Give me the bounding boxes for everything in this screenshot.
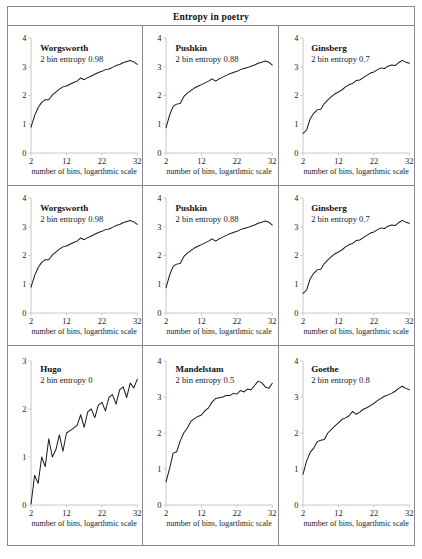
svg-text:32: 32 — [133, 317, 141, 326]
svg-text:4: 4 — [294, 357, 299, 366]
panel-mandelstam: 012342122232number of bins, logarthmic s… — [143, 346, 278, 545]
plot-area: 012342122232number of bins, logarthmic s… — [279, 186, 414, 345]
svg-text:32: 32 — [268, 157, 276, 166]
svg-text:22: 22 — [98, 317, 106, 326]
svg-text:2: 2 — [294, 92, 298, 101]
svg-text:32: 32 — [405, 157, 413, 166]
svg-text:12: 12 — [62, 317, 70, 326]
svg-text:0: 0 — [22, 501, 26, 510]
svg-text:12: 12 — [334, 509, 342, 518]
svg-text:1: 1 — [158, 465, 162, 474]
svg-text:3: 3 — [294, 63, 298, 72]
svg-text:12: 12 — [198, 317, 206, 326]
svg-text:0: 0 — [294, 149, 298, 158]
svg-text:2: 2 — [22, 405, 26, 414]
panel-worgsworth-2: 012342122232number of bins, logarthmic s… — [8, 186, 143, 346]
svg-text:number of bins, logarthmic sca: number of bins, logarthmic scale — [167, 519, 273, 528]
svg-text:22: 22 — [369, 157, 377, 166]
svg-text:2: 2 — [164, 317, 168, 326]
svg-text:4: 4 — [158, 357, 163, 366]
svg-text:number of bins, logarthmic sca: number of bins, logarthmic scale — [167, 327, 273, 336]
svg-text:12: 12 — [62, 157, 70, 166]
svg-text:3: 3 — [158, 393, 162, 402]
svg-text:2: 2 — [29, 317, 33, 326]
svg-text:22: 22 — [233, 509, 241, 518]
svg-text:number of bins, logarthmic sca: number of bins, logarthmic scale — [32, 519, 138, 528]
figure-root: Entropy in poetry 012342122232number of … — [0, 0, 422, 559]
svg-text:22: 22 — [369, 509, 377, 518]
svg-text:2: 2 — [22, 92, 26, 101]
plot-area: 01232122232number of bins, logarthmic sc… — [8, 346, 142, 545]
panel-grid: 012342122232number of bins, logarthmic s… — [7, 26, 415, 546]
svg-text:2: 2 — [301, 509, 305, 518]
svg-text:22: 22 — [369, 317, 377, 326]
svg-text:0: 0 — [22, 149, 26, 158]
svg-text:3: 3 — [22, 357, 26, 366]
plot-area: 012342122232number of bins, logarthmic s… — [279, 26, 414, 185]
svg-text:number of bins, logarthmic sca: number of bins, logarthmic scale — [303, 327, 409, 336]
svg-text:12: 12 — [198, 157, 206, 166]
svg-text:4: 4 — [294, 194, 299, 203]
svg-text:2: 2 — [158, 252, 162, 261]
plot-area: 012342122232number of bins, logarthmic s… — [143, 346, 277, 545]
svg-text:3: 3 — [158, 223, 162, 232]
svg-text:2: 2 — [301, 317, 305, 326]
svg-text:22: 22 — [233, 157, 241, 166]
svg-text:2: 2 — [158, 429, 162, 438]
panel-pushkin-1: 012342122232number of bins, logarthmic s… — [143, 26, 278, 186]
svg-text:2: 2 — [29, 157, 33, 166]
svg-text:1: 1 — [294, 120, 298, 129]
svg-text:2: 2 — [158, 92, 162, 101]
svg-text:1: 1 — [22, 453, 26, 462]
svg-text:1: 1 — [22, 280, 26, 289]
svg-text:32: 32 — [268, 509, 276, 518]
panel-worgsworth-1: 012342122232number of bins, logarthmic s… — [8, 26, 143, 186]
plot-area: 012342122232number of bins, logarthmic s… — [8, 186, 142, 345]
svg-text:0: 0 — [158, 501, 162, 510]
svg-text:12: 12 — [334, 317, 342, 326]
svg-text:22: 22 — [233, 317, 241, 326]
panel-pushkin-2: 012342122232number of bins, logarthmic s… — [143, 186, 278, 346]
svg-text:number of bins, logarthmic sca: number of bins, logarthmic scale — [303, 167, 409, 176]
panel-ginsberg-1: 012342122232number of bins, logarthmic s… — [279, 26, 414, 186]
svg-text:1: 1 — [294, 280, 298, 289]
svg-text:32: 32 — [268, 317, 276, 326]
svg-text:4: 4 — [158, 194, 163, 203]
svg-text:1: 1 — [158, 280, 162, 289]
panel-hugo: 01232122232number of bins, logarthmic sc… — [8, 346, 143, 545]
panel-ginsberg-2: 012342122232number of bins, logarthmic s… — [279, 186, 414, 346]
svg-text:1: 1 — [22, 120, 26, 129]
svg-text:12: 12 — [334, 157, 342, 166]
svg-text:0: 0 — [158, 309, 162, 318]
svg-text:3: 3 — [22, 63, 26, 72]
svg-text:3: 3 — [294, 223, 298, 232]
svg-text:0: 0 — [294, 501, 298, 510]
svg-text:32: 32 — [133, 509, 141, 518]
svg-text:2: 2 — [164, 509, 168, 518]
svg-text:0: 0 — [294, 309, 298, 318]
svg-text:1: 1 — [158, 120, 162, 129]
svg-text:2: 2 — [294, 252, 298, 261]
svg-text:2: 2 — [29, 509, 33, 518]
plot-area: 012342122232number of bins, logarthmic s… — [279, 346, 414, 545]
svg-text:32: 32 — [405, 317, 413, 326]
svg-text:4: 4 — [22, 34, 27, 43]
svg-text:number of bins, logarthmic sca: number of bins, logarthmic scale — [32, 167, 138, 176]
figure-title: Entropy in poetry — [7, 6, 415, 26]
svg-text:0: 0 — [22, 309, 26, 318]
plot-area: 012342122232number of bins, logarthmic s… — [143, 26, 277, 185]
svg-text:2: 2 — [301, 157, 305, 166]
svg-text:3: 3 — [22, 223, 26, 232]
svg-text:4: 4 — [22, 194, 27, 203]
svg-text:32: 32 — [133, 157, 141, 166]
svg-text:0: 0 — [158, 149, 162, 158]
svg-text:32: 32 — [405, 509, 413, 518]
svg-text:4: 4 — [158, 34, 163, 43]
plot-area: 012342122232number of bins, logarthmic s… — [8, 26, 142, 185]
panel-goethe: 012342122232number of bins, logarthmic s… — [279, 346, 414, 545]
svg-text:3: 3 — [294, 393, 298, 402]
svg-text:2: 2 — [22, 252, 26, 261]
svg-text:2: 2 — [164, 157, 168, 166]
svg-text:number of bins, logarthmic sca: number of bins, logarthmic scale — [303, 519, 409, 528]
svg-text:4: 4 — [294, 34, 299, 43]
